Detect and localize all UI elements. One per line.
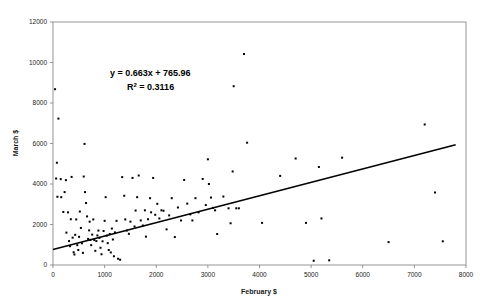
data-point [97,230,99,232]
data-point [434,192,436,194]
data-point [183,179,185,181]
data-point [119,259,121,261]
data-point [158,217,160,219]
data-point [235,207,237,209]
data-point [70,218,72,220]
scatter-chart: 020004000600080001000012000 010002000300… [0,0,487,305]
data-point [168,214,170,216]
data-point [73,253,75,255]
data-point [84,191,86,193]
data-point [156,203,158,205]
data-point [191,219,193,221]
data-point [149,197,151,199]
data-point [89,221,91,223]
y-axis-tick-labels: 020004000600080001000012000 [29,18,47,268]
data-point [111,228,113,230]
data-point [318,166,320,168]
data-point [210,197,212,199]
x-tick-label: 0 [51,271,55,278]
data-point [72,237,74,239]
data-point [60,178,62,180]
data-point [73,251,75,253]
data-point [79,211,81,213]
x-axis-title: February $ [241,288,277,296]
data-point [194,197,196,199]
data-point [54,88,56,90]
x-tick-label: 7000 [407,271,422,278]
data-point [56,196,58,198]
data-point [341,157,343,159]
data-point [123,195,125,197]
r-squared-label: R2 = 0.3116 [127,82,174,92]
data-point [128,233,130,235]
data-point-series [54,53,444,262]
data-point [207,158,209,160]
data-point [86,215,88,217]
data-point [71,176,73,178]
data-point [233,85,235,87]
data-point [95,240,97,242]
data-point [94,250,96,252]
y-tick-label: 10000 [29,59,47,66]
x-tick-label: 5000 [304,271,319,278]
data-point [147,218,149,220]
data-point [246,142,248,144]
data-point [80,227,82,229]
data-point [136,196,138,198]
data-point [107,242,109,244]
data-point [56,162,58,164]
data-point [85,202,87,204]
data-point [160,209,162,211]
y-tick-label: 4000 [33,180,48,187]
data-point [121,176,123,178]
data-point [320,217,322,219]
data-point [104,220,106,222]
data-point [313,260,315,262]
y-axis-title: March $ [12,130,20,157]
data-point [214,209,216,211]
data-point [116,220,118,222]
x-tick-label: 6000 [356,271,371,278]
data-point [78,236,80,238]
y-tick-label: 0 [43,261,47,268]
data-point [88,229,90,231]
data-point [144,209,146,211]
data-point [174,236,176,238]
y-tick-label: 12000 [29,18,47,25]
data-point [228,207,230,209]
trend-line [53,145,456,250]
data-point [57,118,59,120]
data-point [442,240,444,242]
y-tick-label: 8000 [33,99,48,106]
data-point [295,157,297,159]
data-point [177,206,179,208]
data-point [129,221,131,223]
data-point [140,219,142,221]
data-point [205,204,207,206]
data-point [186,203,188,205]
data-point [113,255,115,257]
data-point [103,230,105,232]
data-point [138,175,140,177]
x-axis-ticks [53,265,466,268]
data-point [96,234,98,236]
data-point [90,244,92,246]
data-point [261,222,263,224]
data-point [232,170,234,172]
data-point [91,234,93,236]
data-point [76,244,78,246]
data-point [171,197,173,199]
data-point [112,238,114,240]
data-point [102,240,104,242]
trendline-equation-label: y = 0.663x + 765.96 [110,68,191,78]
data-point [100,247,102,249]
x-tick-label: 1000 [97,271,112,278]
y-tick-label: 2000 [33,221,48,228]
data-point [67,211,69,213]
data-point [134,226,136,228]
data-point [68,240,70,242]
data-point [328,259,330,261]
data-point [55,178,57,180]
data-point [110,251,112,253]
data-point [208,183,210,185]
